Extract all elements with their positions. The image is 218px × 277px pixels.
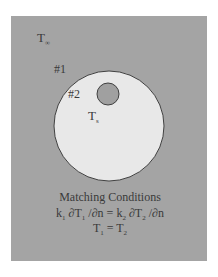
region-1-label: #1 <box>54 63 66 75</box>
flux-continuity-equation: k1 ∂T1 /∂n = k2 ∂T2 /∂n <box>56 207 164 222</box>
inclusion-circle <box>97 83 119 105</box>
temperature-continuity-equation: T1 = T2 <box>93 222 127 237</box>
matching-conditions-title: Matching Conditions <box>59 191 161 203</box>
region-2-label: #2 <box>68 88 80 100</box>
source-temperature-label: Ts <box>88 109 99 125</box>
ambient-temperature-label: T∞ <box>37 31 50 47</box>
